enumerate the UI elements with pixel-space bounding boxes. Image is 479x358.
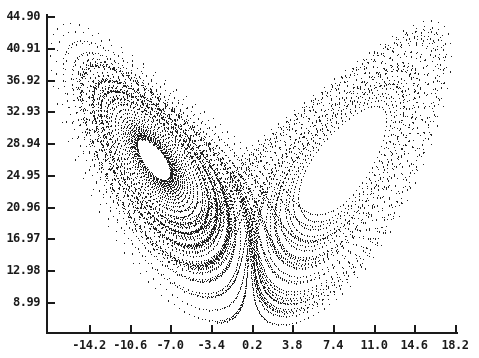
y-tick-label: 40.91 xyxy=(0,42,40,54)
x-tick-mark xyxy=(211,325,213,333)
y-tick-label: 36.92 xyxy=(0,74,40,86)
x-tick-label: -14.2 xyxy=(67,339,111,351)
y-tick-mark xyxy=(47,16,55,18)
y-tick-mark xyxy=(47,270,55,272)
x-tick-label: 18.2 xyxy=(433,339,477,351)
y-tick-label: 12.98 xyxy=(0,264,40,276)
y-tick-label: 28.94 xyxy=(0,137,40,149)
y-tick-label: 20.96 xyxy=(0,201,40,213)
y-tick-label: 32.93 xyxy=(0,105,40,117)
x-tick-mark xyxy=(414,325,416,333)
x-tick-mark xyxy=(252,325,254,333)
x-tick-label: -3.4 xyxy=(189,339,233,351)
x-tick-label: 3.8 xyxy=(270,339,314,351)
y-tick-mark xyxy=(47,207,55,209)
y-tick-mark xyxy=(47,302,55,304)
y-tick-mark xyxy=(47,175,55,177)
x-tick-mark xyxy=(374,325,376,333)
x-tick-label: 14.6 xyxy=(392,339,436,351)
x-tick-label: -10.6 xyxy=(108,339,152,351)
x-tick-label: 11.0 xyxy=(352,339,396,351)
y-tick-label: 16.97 xyxy=(0,232,40,244)
y-tick-mark xyxy=(47,80,55,82)
x-tick-mark xyxy=(333,325,335,333)
y-tick-mark xyxy=(47,111,55,113)
x-tick-label: 0.2 xyxy=(230,339,274,351)
x-tick-label: -7.0 xyxy=(148,339,192,351)
x-tick-mark xyxy=(89,325,91,333)
y-axis-line xyxy=(46,14,48,334)
y-tick-label: 8.99 xyxy=(0,296,40,308)
y-tick-mark xyxy=(47,238,55,240)
y-tick-mark xyxy=(47,143,55,145)
x-tick-mark xyxy=(455,325,457,333)
x-tick-mark xyxy=(170,325,172,333)
x-tick-label: 7.4 xyxy=(311,339,355,351)
x-tick-mark xyxy=(130,325,132,333)
y-tick-label: 44.90 xyxy=(0,10,40,22)
y-tick-label: 24.95 xyxy=(0,169,40,181)
x-tick-mark xyxy=(292,325,294,333)
attractor-scatter-plot xyxy=(0,0,479,358)
y-tick-mark xyxy=(47,48,55,50)
